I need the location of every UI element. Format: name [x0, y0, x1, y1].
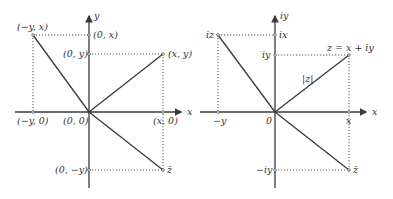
label-ix: ix — [279, 29, 288, 40]
vector-z — [89, 54, 163, 112]
label-x: x — [346, 115, 352, 126]
point-marker — [217, 34, 220, 37]
label-z-bar: z̄ — [352, 164, 359, 175]
axis-x-label: x — [187, 106, 193, 117]
point-marker — [348, 111, 351, 114]
point-marker — [217, 111, 220, 114]
label-iy: iy — [262, 49, 271, 60]
vector-iz — [33, 35, 89, 112]
label-zero-neg-y: (0, −y) — [55, 164, 88, 175]
label-zero-x: (0, x) — [93, 29, 118, 40]
right-diagram: iy x iz ix iy z = x + iy |z| −y 0 x −iy … — [200, 10, 378, 188]
point-marker — [88, 169, 91, 172]
point-marker — [274, 169, 277, 172]
axis-iy-label: iy — [280, 10, 289, 21]
axis-x-label: x — [372, 106, 378, 117]
vector-iz — [218, 35, 275, 112]
point-marker — [274, 54, 277, 57]
label-x-zero: (x, 0) — [153, 115, 178, 126]
label-neg-y: −y — [213, 115, 227, 126]
label-zero-y: (0, y) — [63, 48, 88, 59]
label-z-bar: z̄ — [166, 164, 173, 175]
label-neg-y-zero: (−y, 0) — [17, 115, 49, 126]
point-marker — [162, 169, 165, 172]
vector-z-bar — [275, 112, 349, 170]
point-marker — [348, 169, 351, 172]
label-x-y: (x, y) — [168, 48, 192, 59]
left-diagram: y x (−y, x) (0, x) (0, y) (x, y) (−y, 0)… — [15, 10, 193, 188]
point-marker — [88, 53, 91, 56]
vector-z-bar — [89, 112, 163, 170]
label-iz: iz — [206, 29, 215, 40]
point-marker — [162, 111, 165, 114]
label-neg-y-x: (−y, x) — [17, 21, 48, 32]
label-neg-iy: −iy — [256, 164, 273, 175]
label-z-equation: z = x + iy — [326, 42, 374, 53]
point-marker — [274, 34, 277, 37]
label-origin: 0 — [266, 115, 272, 126]
point-marker — [88, 34, 91, 37]
label-origin: (0, 0) — [63, 115, 89, 126]
point-marker — [32, 111, 35, 114]
point-marker — [348, 54, 351, 57]
point-marker — [32, 34, 35, 37]
label-modulus: |z| — [302, 73, 313, 85]
axis-y-label: y — [93, 10, 100, 21]
complex-plane-diagrams: y x (−y, x) (0, x) (0, y) (x, y) (−y, 0)… — [0, 0, 393, 199]
point-marker — [162, 53, 165, 56]
